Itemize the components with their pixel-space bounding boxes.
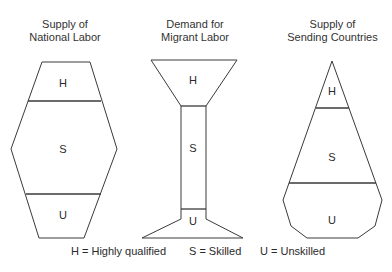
segment-label: U: [59, 209, 67, 221]
segment-label: H: [189, 74, 197, 86]
segment-label: S: [328, 151, 335, 163]
segment-label: U: [328, 214, 336, 226]
legend-item-highly-qualified: H = Highly qualified: [71, 245, 166, 257]
segment-label: S: [189, 142, 196, 154]
legend-item-unskilled: U = Unskilled: [260, 245, 325, 257]
segment-label: H: [328, 85, 336, 97]
segment-label: H: [59, 77, 67, 89]
legend-item-skilled: S = Skilled: [189, 245, 241, 257]
segment-label: U: [189, 215, 197, 227]
segment-label: S: [59, 143, 66, 155]
diagram-canvas: H S U H S U H S U: [0, 0, 392, 272]
